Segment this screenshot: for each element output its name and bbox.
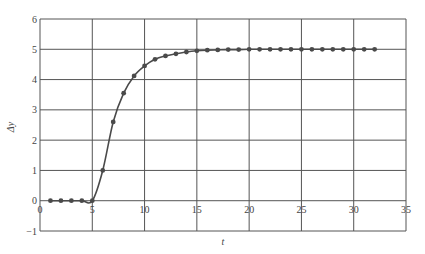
data-point	[226, 47, 231, 52]
data-point	[215, 47, 220, 52]
data-point	[362, 47, 367, 52]
data-point	[111, 120, 116, 125]
data-point	[341, 47, 346, 52]
data-point	[48, 198, 53, 203]
x-tick-label: 15	[192, 204, 202, 215]
x-tick-label: 10	[140, 204, 150, 215]
grid	[40, 19, 406, 231]
y-tick-label: 6	[32, 14, 37, 25]
data-point	[205, 48, 210, 53]
y-tick-label: −1	[26, 226, 37, 237]
data-point	[90, 198, 95, 203]
data-point	[194, 48, 199, 53]
y-tick-label: 4	[32, 74, 37, 85]
data-point	[142, 64, 147, 69]
x-axis-label: t	[222, 236, 225, 247]
x-tick-label: 25	[296, 204, 306, 215]
data-point	[268, 47, 273, 52]
x-tick-label: 30	[349, 204, 359, 215]
data-point	[257, 47, 262, 52]
data-point	[69, 198, 74, 203]
data-point	[320, 47, 325, 52]
data-point	[309, 47, 314, 52]
data-point	[236, 47, 241, 52]
series-line	[50, 49, 374, 203]
data-point	[289, 47, 294, 52]
data-point	[299, 47, 304, 52]
x-tick-label: 35	[401, 204, 411, 215]
data-point	[372, 47, 377, 52]
x-tick-label: 20	[244, 204, 254, 215]
y-axis-label: Δy	[5, 121, 16, 133]
line-chart: 05101520253035−10123456 t Δy	[0, 0, 425, 254]
data-point	[174, 51, 179, 56]
data-point	[247, 47, 252, 52]
data-point	[121, 91, 126, 96]
y-tick-label: 0	[32, 195, 37, 206]
data-point	[100, 168, 105, 173]
data-point	[278, 47, 283, 52]
data-series	[48, 47, 377, 203]
data-point	[330, 47, 335, 52]
data-point	[351, 47, 356, 52]
data-point	[163, 54, 168, 59]
data-point	[79, 198, 84, 203]
x-tick-label: 0	[38, 204, 43, 215]
x-tick-label: 5	[90, 204, 95, 215]
data-point	[132, 74, 137, 79]
y-tick-label: 1	[32, 165, 37, 176]
y-tick-label: 2	[32, 135, 37, 146]
y-tick-label: 5	[32, 44, 37, 55]
data-point	[184, 50, 189, 55]
data-point	[59, 198, 64, 203]
y-tick-label: 3	[32, 104, 37, 115]
data-point	[153, 57, 158, 62]
